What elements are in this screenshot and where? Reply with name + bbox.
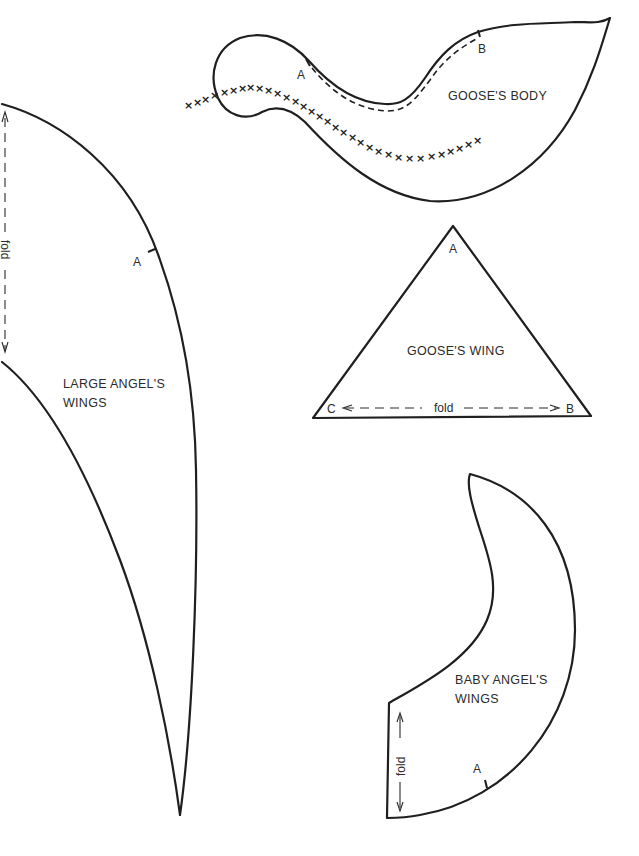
goose-body-title: GOOSE'S BODY bbox=[448, 89, 547, 103]
large-angel-wings-title-line1: LARGE ANGEL'S bbox=[63, 377, 165, 391]
goose-wing-fold-label: fold bbox=[434, 401, 453, 415]
svg-text:×: × bbox=[264, 84, 273, 97]
svg-text:×: × bbox=[246, 81, 255, 94]
baby-angel-wings-fold-label: fold bbox=[394, 757, 408, 776]
svg-text:×: × bbox=[416, 152, 425, 165]
svg-text:×: × bbox=[374, 145, 383, 158]
svg-text:×: × bbox=[273, 87, 282, 100]
svg-text:×: × bbox=[282, 91, 291, 104]
large-angel-wings-point-a-tick bbox=[148, 249, 155, 252]
svg-text:×: × bbox=[427, 150, 436, 163]
svg-text:×: × bbox=[229, 84, 238, 97]
goose-wing-point-a-label: A bbox=[449, 242, 457, 256]
baby-angel-wings-title-line2: WINGS bbox=[455, 692, 499, 706]
baby-angel-wings-piece: A fold BABY ANGEL'S WINGS bbox=[387, 474, 575, 818]
baby-angel-wings-point-a-tick bbox=[485, 780, 487, 788]
svg-text:×: × bbox=[220, 86, 229, 99]
goose-wing-point-b-label: B bbox=[566, 402, 574, 416]
large-angel-wings-point-a-label: A bbox=[133, 255, 141, 269]
svg-text:×: × bbox=[365, 141, 374, 154]
svg-text:×: × bbox=[384, 148, 393, 161]
svg-text:×: × bbox=[437, 148, 446, 161]
baby-angel-wings-title-line1: BABY ANGEL'S bbox=[455, 673, 548, 687]
goose-wing-point-c-label: C bbox=[327, 402, 336, 416]
large-angel-wings-outline bbox=[2, 104, 196, 815]
goose-body-piece: A B GOOSE'S BODY × × × × × × × × × × × ×… bbox=[184, 18, 610, 201]
goose-wing-title: GOOSE'S WING bbox=[407, 344, 505, 358]
svg-text:×: × bbox=[210, 89, 219, 102]
svg-text:×: × bbox=[255, 82, 264, 95]
goose-body-point-a-label: A bbox=[297, 68, 305, 82]
svg-text:×: × bbox=[394, 151, 403, 164]
svg-text:×: × bbox=[405, 152, 414, 165]
baby-angel-wings-point-a-label: A bbox=[473, 762, 481, 776]
goose-body-outline bbox=[214, 18, 610, 201]
goose-body-point-b-label: B bbox=[478, 42, 486, 56]
svg-text:×: × bbox=[455, 142, 464, 155]
svg-text:×: × bbox=[464, 138, 473, 151]
svg-text:×: × bbox=[446, 145, 455, 158]
large-angel-wings-fold-label: fold bbox=[0, 240, 12, 259]
svg-text:×: × bbox=[473, 134, 482, 147]
svg-text:×: × bbox=[184, 99, 193, 112]
large-angel-wings-piece: fold A LARGE ANGEL'S WINGS bbox=[0, 104, 196, 815]
pattern-sheet: A B GOOSE'S BODY × × × × × × × × × × × ×… bbox=[0, 0, 639, 856]
goose-body-cross-stitch-line: × × × × × × × × × × × × × × × × × × × × … bbox=[184, 81, 482, 165]
svg-text:×: × bbox=[201, 93, 210, 106]
svg-text:×: × bbox=[356, 136, 365, 149]
goose-wing-piece: A C B fold GOOSE'S WING bbox=[313, 226, 591, 418]
large-angel-wings-title-line2: WINGS bbox=[63, 396, 107, 410]
svg-text:×: × bbox=[339, 126, 348, 139]
